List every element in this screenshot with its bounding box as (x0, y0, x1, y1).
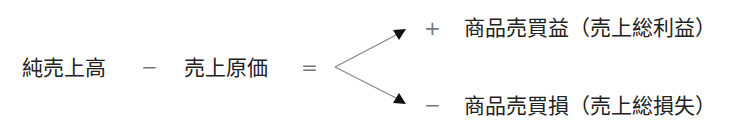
arrowhead-down-icon (393, 93, 406, 104)
minus-sign: − (424, 93, 441, 117)
gross-loss-label: 商品売買損（売上総損失） (464, 94, 716, 118)
plus-sign: + (424, 16, 441, 40)
arrowhead-up-icon (393, 29, 406, 40)
gross-profit-label: 商品売買益（売上総利益） (464, 16, 716, 40)
